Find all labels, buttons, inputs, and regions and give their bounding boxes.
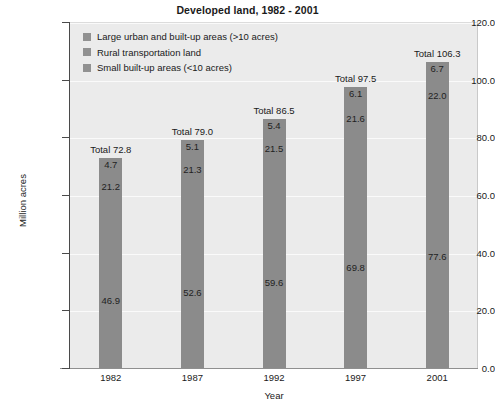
bar-segment-value-label: 69.8 (344, 262, 367, 273)
y-axis-tick (62, 253, 70, 254)
legend-item-label: Rural transportation land (97, 47, 201, 58)
bar-segment[interactable]: 59.6 (263, 196, 286, 368)
bar-segment[interactable]: 21.5 (263, 134, 286, 196)
y-axis-tick-label: 20.0 (439, 305, 495, 316)
legend-swatch-icon (83, 33, 91, 41)
bar-segment[interactable]: 5.4 (263, 119, 286, 135)
y-axis-tick-label: 100.0 (439, 74, 495, 85)
bar-segment-value-label: 21.6 (344, 113, 367, 124)
bar-stack[interactable]: 5.421.559.6 (263, 119, 286, 368)
bar-total-label: Total 79.0 (146, 126, 238, 137)
x-axis-tick-label: 1987 (157, 372, 227, 383)
legend-item[interactable]: Small built-up areas (<10 acres) (83, 60, 343, 76)
y-axis-tick-label: 60.0 (439, 190, 495, 201)
bar-total-label: Total 97.5 (310, 73, 402, 84)
x-axis-tick-label: 1992 (239, 372, 309, 383)
gridline (70, 23, 477, 24)
bar-total-label: Total 86.5 (228, 105, 320, 116)
bar-segment-value-label: 4.7 (99, 159, 122, 170)
bar-segment-value-label: 52.6 (181, 287, 204, 298)
legend-item-label: Large urban and built-up areas (>10 acre… (97, 31, 278, 42)
bar-segment-value-label: 21.2 (99, 181, 122, 192)
y-axis-tick-label: 40.0 (439, 247, 495, 258)
x-axis-line (60, 368, 478, 369)
legend-swatch-icon (83, 48, 91, 56)
bar-segment-value-label: 5.4 (263, 120, 286, 131)
bar-segment-value-label: 46.9 (99, 295, 122, 306)
x-axis-tick-label: 2001 (402, 372, 472, 383)
bar-segment[interactable]: 4.7 (99, 158, 122, 172)
y-axis-tick (62, 80, 70, 81)
bar-segment[interactable]: 52.6 (181, 216, 204, 368)
bar-segment[interactable]: 5.1 (181, 140, 204, 155)
developed-land-stacked-bar-chart: Developed land, 1982 - 2001 4.721.246.95… (0, 0, 495, 419)
bar-segment[interactable]: 21.2 (99, 172, 122, 233)
legend-swatch-icon (83, 64, 91, 72)
legend-item[interactable]: Rural transportation land (83, 45, 343, 61)
bar-stack[interactable]: 6.722.077.6 (426, 62, 449, 368)
x-axis-tick-label: 1982 (76, 372, 146, 383)
bar-segment-value-label: 21.3 (181, 164, 204, 175)
bar-total-label: Total 72.8 (65, 144, 157, 155)
bar-stack[interactable]: 4.721.246.9 (99, 158, 122, 368)
bar-segment[interactable]: 21.3 (181, 155, 204, 216)
y-axis-tick (62, 310, 70, 311)
bar-segment-value-label: 59.6 (263, 277, 286, 288)
y-axis-tick (62, 368, 70, 369)
bar-segment[interactable]: 46.9 (99, 233, 122, 368)
legend-item[interactable]: Large urban and built-up areas (>10 acre… (83, 29, 343, 45)
y-axis-tick (62, 195, 70, 196)
bar-segment-value-label: 21.5 (263, 143, 286, 154)
bar-segment-value-label: 6.7 (426, 63, 449, 74)
y-axis-title: Million acres (17, 156, 28, 246)
y-axis-tick (62, 22, 70, 23)
legend-item-label: Small built-up areas (<10 acres) (97, 62, 232, 73)
bar-segment[interactable]: 6.1 (344, 87, 367, 105)
bar-stack[interactable]: 5.121.352.6 (181, 140, 204, 368)
y-axis-tick-label: 120.0 (439, 17, 495, 28)
bar-stack[interactable]: 6.121.669.8 (344, 87, 367, 368)
gridline (70, 81, 477, 82)
bar-segment[interactable]: 69.8 (344, 167, 367, 368)
chart-legend: Large urban and built-up areas (>10 acre… (83, 29, 343, 76)
chart-title: Developed land, 1982 - 2001 (0, 4, 495, 16)
y-axis-tick (62, 137, 70, 138)
bar-total-label: Total 106.3 (391, 48, 483, 59)
bar-segment[interactable]: 21.6 (344, 104, 367, 166)
bar-segment-value-label: 5.1 (181, 141, 204, 152)
bar-segment-value-label: 6.1 (344, 88, 367, 99)
y-axis-tick-label: 80.0 (439, 132, 495, 143)
x-axis-tick-label: 1997 (321, 372, 391, 383)
x-axis-title: Year (70, 390, 478, 401)
bar-segment-value-label: 22.0 (426, 90, 449, 101)
